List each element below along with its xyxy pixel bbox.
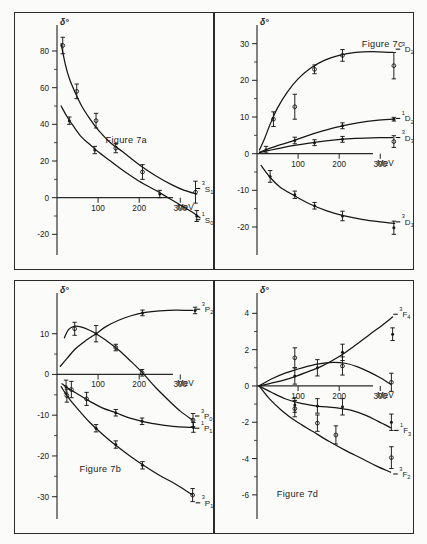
curve-label-1S0: 1S0	[202, 211, 213, 226]
y-tick-label: 0	[44, 194, 49, 203]
datapoint-3F2	[315, 415, 319, 431]
y-tick-label: 20	[240, 76, 250, 85]
datapoint-1F3	[340, 399, 344, 415]
datapoint-3P0	[84, 392, 88, 405]
datapoint-3F4	[390, 328, 394, 341]
panel-figure-7a: δ°806040200-20100200300MeVFigure 7a3S11S…	[14, 12, 214, 270]
curve-label-3F2: 3F2	[399, 466, 410, 481]
curve-1S0	[61, 106, 200, 218]
curve-3P0	[62, 384, 193, 428]
datapoint-peak-curve	[114, 344, 118, 351]
datapoint-3P1	[190, 489, 194, 502]
curve-hump-curve	[259, 362, 391, 386]
y-tick-label: 2	[244, 346, 249, 355]
datapoint-3P0	[69, 381, 73, 397]
datapoint-3S1	[193, 181, 197, 203]
datapoint-3P2	[193, 307, 197, 314]
datapoint-3S1	[140, 165, 144, 180]
y-tick-label: 0	[244, 382, 249, 391]
curve-3P1	[61, 387, 193, 495]
y-tick-label: 10	[240, 113, 250, 122]
datapoint-3D2	[392, 52, 396, 78]
datapoint-hump-curve	[340, 357, 344, 375]
curve-3D2	[259, 52, 392, 150]
curve-label-3D1: 3D1	[402, 213, 413, 228]
y-tick-label: -2	[242, 418, 250, 427]
x-axis-unit-7b: MeV	[177, 379, 194, 388]
x-tick-label: 200	[132, 380, 146, 389]
y-tick-label: -20	[237, 223, 249, 232]
curve-1F3	[259, 386, 391, 428]
x-tick-label: 100	[291, 160, 305, 169]
panel-caption-7c: Figure 7c	[362, 39, 403, 49]
curve-label-3D2: 3D2	[402, 41, 413, 56]
panel-caption-7b: Figure 7b	[80, 464, 122, 474]
curve-3S1	[61, 44, 197, 194]
curve-3F2	[259, 386, 391, 472]
x-tick-label: 200	[332, 392, 346, 401]
curve-label-3P1: 3P1	[202, 494, 213, 509]
plot-7d: δ°420-2-4-6100200300MeVFigure 7d3F41F33F…	[215, 281, 413, 533]
y-tick-label: 0	[244, 150, 249, 159]
plot-7a: δ°806040200-20100200300MeVFigure 7a3S11S…	[15, 13, 213, 269]
y-tick-label: -20	[37, 230, 49, 239]
y-axis-title-7b: δ°	[60, 285, 69, 295]
plot-7b: δ°100-10-20-30100200300MeVFigure 7b3P23P…	[15, 281, 213, 533]
y-tick-label: -20	[37, 452, 49, 461]
curve-label-3F4: 3F4	[399, 306, 410, 321]
y-axis-title-7c: δ°	[260, 17, 269, 27]
y-tick-label: 80	[40, 47, 50, 56]
panel-figure-7c: δ°3020100-10-20100200300MeVFigure 7c3D21…	[214, 12, 414, 270]
x-axis-unit-7d: MeV	[377, 391, 394, 400]
curve-label-3S1: 3S1	[202, 180, 213, 195]
x-tick-label: 200	[132, 204, 146, 213]
y-tick-label: 4	[244, 309, 249, 318]
plot-7c: δ°3020100-10-20100200300MeVFigure 7c3D21…	[215, 13, 413, 269]
y-tick-label: 60	[40, 84, 50, 93]
y-tick-label: 20	[40, 157, 50, 166]
curve-label-1F3: 1F3	[400, 422, 411, 437]
panel-figure-7b: δ°100-10-20-30100200300MeVFigure 7b3P23P…	[14, 280, 214, 534]
x-axis-unit-7c: MeV	[377, 159, 394, 168]
y-tick-label: -30	[37, 493, 49, 502]
datapoint-3S1	[61, 37, 65, 54]
y-tick-label: 40	[40, 120, 50, 129]
panel-caption-7d: Figure 7d	[277, 489, 319, 499]
y-axis-title-7a: δ°	[60, 17, 69, 27]
datapoint-3F2	[389, 447, 393, 469]
y-tick-label: -6	[242, 491, 250, 500]
datapoint-peak-curve	[72, 322, 76, 335]
datapoint-3S1	[75, 84, 79, 99]
curve-3D1	[261, 165, 395, 223]
y-tick-label: -4	[242, 455, 250, 464]
panel-figure-7d: δ°420-2-4-6100200300MeVFigure 7d3F41F33F…	[214, 280, 414, 534]
curve-label-3P2: 3P2	[202, 301, 213, 316]
y-axis-title-7d: δ°	[260, 285, 269, 295]
y-tick-label: 30	[240, 40, 250, 49]
datapoint-3P1	[94, 425, 98, 432]
curve-peak-curve	[64, 326, 192, 420]
curve-label-3D3: 3D3	[402, 129, 413, 144]
y-tick-label: -10	[37, 411, 49, 420]
datapoint-3D2	[293, 94, 297, 119]
x-tick-label: 100	[291, 392, 305, 401]
y-tick-label: 0	[44, 370, 49, 379]
curve-1D2	[259, 119, 392, 152]
y-tick-label: 10	[40, 330, 50, 339]
y-tick-label: -10	[237, 186, 249, 195]
x-tick-label: 200	[332, 160, 346, 169]
x-tick-label: 100	[91, 204, 105, 213]
x-tick-label: 100	[91, 380, 105, 389]
datapoint-3P1	[65, 389, 69, 402]
figure-root: δ°806040200-20100200300MeVFigure 7a3S11S…	[0, 0, 427, 544]
curve-label-1D2: 1D2	[402, 110, 413, 125]
datapoint-3D2	[340, 50, 344, 62]
datapoint-hump-curve	[293, 348, 297, 368]
datapoint-hump-curve	[389, 373, 393, 391]
datapoint-3F2	[334, 426, 338, 444]
